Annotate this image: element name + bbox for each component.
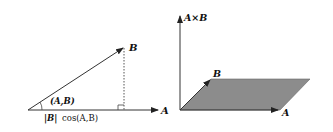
vector-b-arrow — [28, 48, 123, 110]
right-angle-marker — [118, 105, 124, 110]
cross-product-diagram: A×B B A — [180, 12, 310, 118]
diagram-canvas: B A (A,B) |B| cos(A,B) A×B B A — [0, 0, 333, 132]
parallelogram — [180, 79, 310, 110]
dot-product-diagram: B A (A,B) |B| cos(A,B) — [28, 42, 169, 124]
vector-b-label-right: B — [212, 68, 221, 79]
cross-product-label: A×B — [183, 12, 207, 23]
vector-a-label-right: A — [281, 107, 289, 118]
vector-diagram: B A (A,B) |B| cos(A,B) A×B B A — [0, 0, 333, 132]
projection-cos-label: cos(A,B) — [62, 113, 98, 123]
projection-abs-label: |B| — [44, 113, 57, 124]
angle-arc — [40, 102, 42, 110]
vector-b-label: B — [128, 42, 137, 53]
angle-label: (A,B) — [50, 96, 75, 107]
vector-a-label: A — [160, 105, 169, 116]
